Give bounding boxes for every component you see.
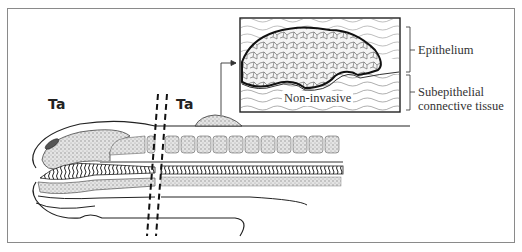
callout-arrow [221,61,236,116]
stage-label-right: Ta [176,96,194,112]
anatomy-illustration [0,0,522,252]
subepithelial-label-line1: Subepithelial [418,85,484,99]
subepithelial-label-line2: connective tissue [418,99,504,113]
lower-tissue-layer [36,177,341,208]
inset-caption: Non-invasive [282,91,353,106]
villi-row [110,136,339,155]
epithelium-label: Epithelium [418,43,474,57]
stage-label-left: Ta [48,96,66,112]
cut-lines [147,94,167,236]
surface-tumor [195,115,242,126]
layer-brackets [406,27,415,110]
